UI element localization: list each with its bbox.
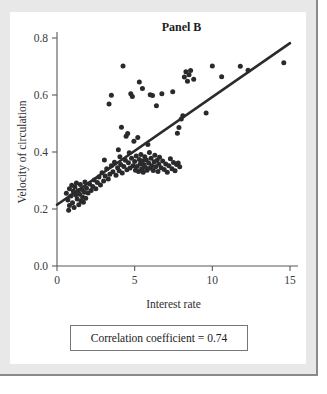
data-point bbox=[187, 72, 192, 77]
data-point bbox=[281, 60, 286, 65]
data-point bbox=[147, 150, 152, 155]
data-point bbox=[238, 64, 243, 69]
data-point bbox=[96, 175, 101, 180]
data-point bbox=[119, 125, 124, 130]
data-point bbox=[188, 68, 193, 73]
data-point bbox=[121, 63, 126, 68]
y-tick-label: 0.2 bbox=[34, 203, 49, 215]
data-point bbox=[150, 93, 155, 98]
data-point bbox=[66, 208, 71, 213]
data-point bbox=[102, 157, 107, 162]
data-point bbox=[145, 142, 150, 147]
data-point bbox=[126, 160, 131, 165]
data-point bbox=[182, 75, 187, 80]
figure-card: Panel B0.00.20.40.60.8051015Interest rat… bbox=[10, 12, 306, 364]
data-point bbox=[170, 89, 175, 94]
data-point bbox=[191, 77, 196, 82]
correlation-coefficient-label: Correlation coefficient = 0.74 bbox=[91, 332, 228, 344]
data-point bbox=[176, 125, 181, 130]
plot-svg: Panel B0.00.20.40.60.8051015Interest rat… bbox=[10, 12, 306, 312]
data-point bbox=[82, 179, 87, 184]
data-point bbox=[204, 110, 209, 115]
y-tick-label: 0.6 bbox=[34, 89, 49, 101]
data-point bbox=[131, 139, 136, 144]
panel-title: Panel B bbox=[162, 20, 202, 34]
data-point bbox=[152, 153, 157, 158]
x-axis-title: Interest rate bbox=[146, 298, 201, 310]
data-point bbox=[98, 183, 103, 188]
correlation-coefficient-box: Correlation coefficient = 0.74 bbox=[70, 325, 248, 351]
y-tick-label: 0.0 bbox=[34, 260, 49, 272]
data-point bbox=[246, 68, 251, 73]
data-point bbox=[159, 91, 164, 96]
data-point bbox=[117, 154, 122, 159]
x-tick-label: 0 bbox=[54, 274, 60, 286]
data-point bbox=[64, 191, 69, 196]
data-point bbox=[107, 102, 112, 107]
data-point bbox=[140, 86, 145, 91]
data-point bbox=[84, 186, 89, 191]
data-point bbox=[157, 155, 162, 160]
x-tick-label: 5 bbox=[132, 274, 138, 286]
scatter-plot: Panel B0.00.20.40.60.8051015Interest rat… bbox=[10, 12, 306, 312]
data-point bbox=[180, 113, 185, 118]
data-point bbox=[125, 131, 130, 136]
page-frame: Panel B0.00.20.40.60.8051015Interest rat… bbox=[0, 0, 318, 376]
data-point bbox=[68, 193, 73, 198]
x-tick-label: 15 bbox=[284, 274, 296, 286]
y-axis-title: Velocity of circulation bbox=[16, 100, 29, 203]
data-point bbox=[154, 103, 159, 108]
data-point bbox=[83, 196, 88, 201]
data-point bbox=[114, 173, 119, 178]
data-point bbox=[104, 166, 109, 171]
data-point bbox=[173, 168, 178, 173]
data-point bbox=[185, 79, 190, 84]
data-point bbox=[177, 164, 182, 169]
data-point bbox=[120, 171, 125, 176]
data-point bbox=[175, 131, 180, 136]
data-point bbox=[210, 63, 215, 68]
data-point bbox=[132, 159, 137, 164]
data-point bbox=[137, 79, 142, 84]
data-point bbox=[78, 182, 83, 187]
data-point bbox=[72, 205, 77, 210]
data-point bbox=[219, 74, 224, 79]
x-tick-label: 10 bbox=[207, 274, 219, 286]
data-point bbox=[165, 170, 170, 175]
data-point bbox=[93, 186, 98, 191]
data-point bbox=[130, 94, 135, 99]
data-point bbox=[112, 160, 117, 165]
data-point bbox=[106, 177, 111, 182]
data-point bbox=[65, 197, 70, 202]
data-point bbox=[101, 179, 106, 184]
y-tick-label: 0.4 bbox=[34, 146, 49, 158]
data-point bbox=[127, 150, 132, 155]
y-tick-label: 0.8 bbox=[34, 32, 49, 44]
data-point bbox=[109, 93, 114, 98]
data-point bbox=[116, 147, 121, 152]
data-point bbox=[70, 200, 75, 205]
data-point bbox=[135, 135, 140, 140]
